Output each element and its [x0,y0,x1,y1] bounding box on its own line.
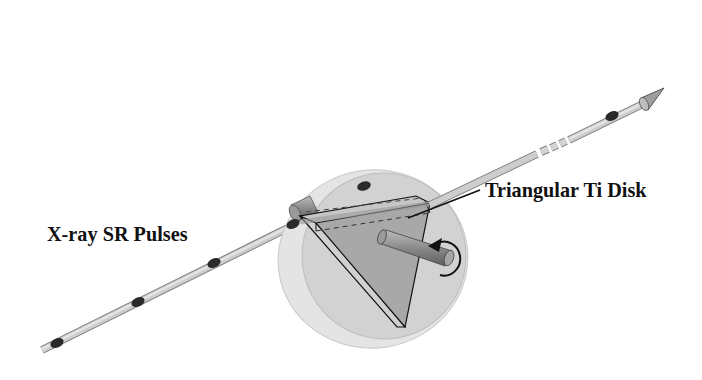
pulse [599,67,616,81]
pulse [599,69,616,83]
pulse [599,68,616,82]
pulse [601,69,618,83]
label-triangular-ti-disk: Triangular Ti Disk [485,177,647,203]
pulse [601,67,618,81]
pulse [598,68,615,82]
pulse [600,66,617,80]
label-xray-sr-pulses: X-ray SR Pulses [47,221,188,247]
pulse [602,68,619,82]
pulse [600,68,617,82]
